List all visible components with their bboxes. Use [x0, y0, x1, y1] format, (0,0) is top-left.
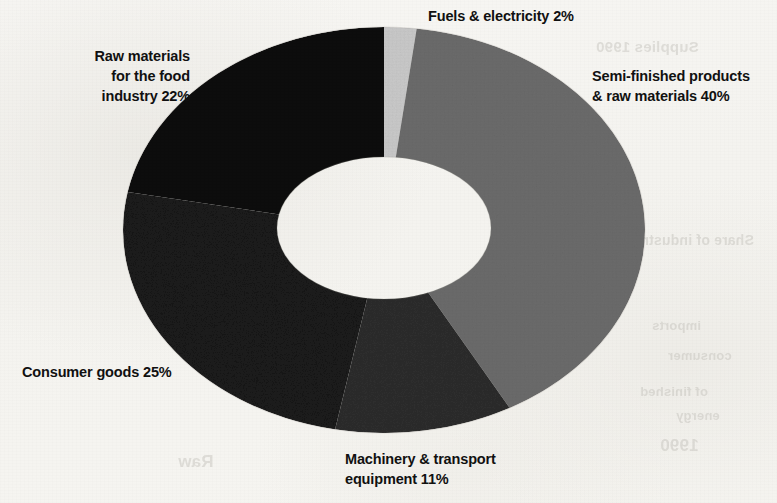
donut-slices	[123, 27, 645, 433]
slice-label-machinery-transport: Machinery & transport equipment 11%	[345, 449, 496, 489]
slice-label-consumer-goods: Consumer goods 25%	[22, 362, 172, 382]
scanned-page: Supplies 1990 Share of industrial produc…	[0, 0, 777, 503]
slice-label-raw-materials-food: Raw materials for the food industry 22%	[38, 46, 190, 106]
slice-label-semi-finished-products: Semi-finished products & raw materials 4…	[592, 66, 750, 106]
slice-label-fuels-electricity: Fuels & electricity 2%	[428, 6, 574, 26]
